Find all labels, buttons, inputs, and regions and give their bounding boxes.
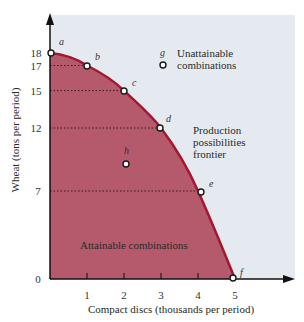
label-e: e bbox=[209, 178, 214, 189]
label-b: b bbox=[95, 51, 100, 62]
y-tick-12: 12 bbox=[31, 122, 42, 134]
attainable-label: Attainable combinations bbox=[80, 239, 188, 251]
label-c: c bbox=[132, 77, 137, 88]
frontier-label-line3: frontier bbox=[193, 148, 226, 160]
unattainable-label-line2: combinations bbox=[177, 59, 236, 71]
frontier-label-line2: possibilities bbox=[193, 136, 246, 148]
label-g: g bbox=[160, 47, 165, 58]
y-axis-title: Wheat (tons per period) bbox=[9, 87, 22, 192]
point-b bbox=[84, 63, 90, 69]
x-tick-2: 2 bbox=[121, 289, 127, 301]
y-tick-15: 15 bbox=[31, 85, 43, 97]
y-tick-17: 17 bbox=[31, 60, 43, 72]
point-g bbox=[160, 62, 166, 68]
label-h: h bbox=[124, 145, 129, 156]
x-tick-4: 4 bbox=[195, 289, 201, 301]
point-f bbox=[230, 275, 236, 281]
label-a: a bbox=[59, 36, 64, 47]
x-tick-3: 3 bbox=[158, 289, 164, 301]
x-tick-1: 1 bbox=[84, 289, 90, 301]
point-e bbox=[198, 189, 204, 195]
point-d bbox=[157, 125, 163, 131]
point-a bbox=[48, 50, 54, 56]
frontier-label-line1: Production bbox=[193, 124, 242, 136]
y-tick-7: 7 bbox=[35, 185, 41, 197]
ppf-chart: 1 2 3 4 5 0 7 12 15 17 18 Compact discs … bbox=[0, 0, 304, 322]
y-tick-0: 0 bbox=[35, 273, 41, 285]
unattainable-label-line1: Unattainable bbox=[177, 47, 233, 59]
x-tick-5: 5 bbox=[232, 289, 238, 301]
x-axis-title: Compact discs (thousands per period) bbox=[88, 303, 255, 316]
point-c bbox=[121, 88, 127, 94]
point-h bbox=[123, 161, 129, 167]
y-tick-18: 18 bbox=[31, 47, 43, 59]
